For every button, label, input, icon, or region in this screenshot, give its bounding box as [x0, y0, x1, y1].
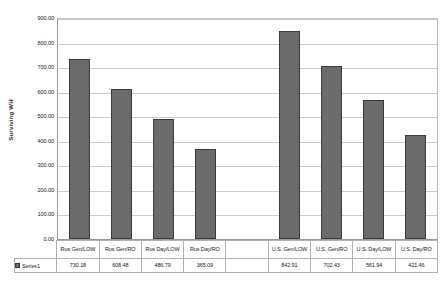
y-axis-tick-labels: 900.00800.00700.00600.00500.00400.00300.… — [18, 18, 54, 240]
table-cell-category — [226, 241, 268, 259]
bar[interactable] — [153, 119, 174, 239]
bar[interactable] — [321, 66, 342, 239]
bar[interactable] — [69, 59, 90, 239]
y-axis-title: Surviving WH — [4, 0, 18, 240]
table-cell-category: Rus Day/LOW — [141, 241, 183, 259]
table-cell-category: U.S. Gen/RO — [311, 241, 353, 259]
y-axis-tick-label: 500.00 — [18, 113, 54, 119]
table-cell-category: Rus Gen/RO — [99, 241, 141, 259]
table-cell-value: 730.18 — [57, 259, 99, 273]
bar-slot — [142, 19, 184, 239]
table-cell-value: 608.48 — [99, 259, 141, 273]
bar-slot — [184, 19, 226, 239]
table-cell-category: U.S. Gen/LOW — [268, 241, 310, 259]
bar-slot — [395, 19, 437, 239]
bar-slot — [100, 19, 142, 239]
table-cell-value — [226, 259, 268, 273]
bar[interactable] — [111, 89, 132, 239]
bar[interactable] — [195, 149, 216, 239]
y-axis-tick-label: 900.00 — [18, 15, 54, 21]
bar-slot — [58, 19, 100, 239]
y-axis-tick-label: 800.00 — [18, 40, 54, 46]
table-cell-category: U.S. Day/RO — [395, 241, 437, 259]
bars-layer — [58, 19, 437, 239]
table-corner-blank — [15, 241, 57, 259]
bar[interactable] — [405, 135, 426, 239]
table-cell-category: Rus Day/RO — [184, 241, 226, 259]
table-row-categories: Rus Gen/LOWRus Gen/RORus Day/LOWRus Day/… — [15, 241, 438, 259]
bar[interactable] — [363, 100, 384, 239]
chart-data-table: Rus Gen/LOWRus Gen/RORus Day/LOWRus Day/… — [14, 240, 438, 273]
y-axis-tick-label: 300.00 — [18, 162, 54, 168]
table-cell-category: Rus Gen/LOW — [57, 241, 99, 259]
y-axis-tick-label: 700.00 — [18, 64, 54, 70]
y-axis-tick-label: 600.00 — [18, 89, 54, 95]
legend-series-label: Series1 — [22, 263, 40, 269]
legend-swatch-icon — [15, 263, 20, 268]
table-cell-value: 486.79 — [141, 259, 183, 273]
plot-area — [57, 18, 438, 240]
y-axis-title-text: Surviving WH — [8, 99, 14, 140]
y-axis-tick-label: 400.00 — [18, 138, 54, 144]
table-cell-value: 421.46 — [395, 259, 437, 273]
table-cell-value: 842.91 — [268, 259, 310, 273]
bar-slot — [269, 19, 311, 239]
table-cell-value: 561.94 — [353, 259, 395, 273]
bar-slot — [353, 19, 395, 239]
table-cell-value: 365.09 — [184, 259, 226, 273]
legend-series-cell[interactable]: Series1 — [15, 259, 57, 273]
table-cell-category: U.S. Day/LOW — [353, 241, 395, 259]
y-axis-tick-label: 200.00 — [18, 187, 54, 193]
y-axis-tick-label: 100.00 — [18, 211, 54, 217]
bar[interactable] — [279, 31, 300, 239]
table-cell-value: 702.43 — [311, 259, 353, 273]
table-row-values: Series1730.18608.48486.79365.09842.91702… — [15, 259, 438, 273]
bar-slot — [226, 19, 268, 239]
bar-slot — [311, 19, 353, 239]
bar-chart-with-data-table: Surviving WH 900.00800.00700.00600.00500… — [0, 0, 446, 294]
